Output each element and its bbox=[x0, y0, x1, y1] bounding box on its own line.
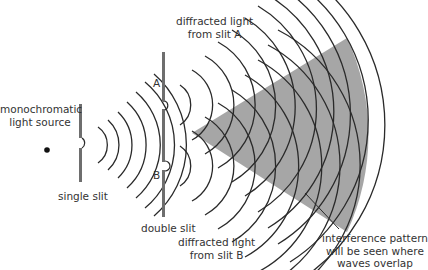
light-source-dot bbox=[44, 147, 50, 153]
diffracted-b-label: diffracted light from slit B bbox=[178, 236, 255, 261]
single-slit-label: single slit bbox=[58, 190, 108, 203]
double-slit bbox=[162, 52, 165, 217]
double-slit-label: double slit bbox=[141, 222, 196, 235]
diffracted-a-label: diffracted light from slit A bbox=[176, 15, 253, 40]
slit-b-label: B bbox=[153, 169, 160, 182]
interference-label: interference pattern will be seen where … bbox=[322, 232, 428, 270]
single-slit-waves bbox=[98, 74, 186, 216]
source-label: monochromatic light source bbox=[0, 103, 80, 128]
slit-a-label: A bbox=[153, 77, 160, 90]
